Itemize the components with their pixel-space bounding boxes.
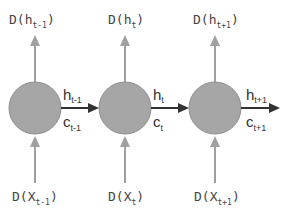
- output-label: D(ht): [108, 12, 144, 30]
- hidden-state-label: ht+1: [246, 86, 267, 105]
- hidden-state-label: ht: [153, 86, 164, 105]
- cell-node: [189, 82, 241, 134]
- cell-state-label: ct-1: [63, 113, 81, 133]
- output-label: D(ht+1): [193, 12, 239, 30]
- cell-node: [99, 82, 151, 134]
- cell-node: [9, 82, 61, 134]
- arrow-up-icon: [30, 35, 40, 46]
- cell-state-label: ct: [153, 113, 164, 133]
- arrow-right-icon: [269, 103, 280, 113]
- rnn-diagram: D(ht-1) D(Xt-1) ht-1 ct-1 D(ht) D(Xt) ht…: [0, 0, 291, 214]
- arrow-up-icon: [30, 136, 40, 147]
- arrow-up-icon: [120, 136, 130, 147]
- state-transition-1: ht-1 ct-1: [61, 86, 99, 133]
- output-label: D(ht-1): [9, 12, 55, 30]
- cell-state-label: ct+1: [246, 113, 266, 133]
- arrow-up-icon: [210, 136, 220, 147]
- state-transition-3: ht+1 ct+1: [241, 86, 280, 133]
- cell-t: D(ht) D(Xt): [99, 12, 151, 207]
- state-transition-2: ht ct: [151, 86, 189, 133]
- input-label: D(Xt-1): [12, 189, 58, 207]
- arrow-up-icon: [210, 35, 220, 46]
- cell-t-plus-1: D(ht+1) D(Xt+1): [189, 12, 241, 207]
- arrow-right-icon: [88, 103, 99, 113]
- arrow-up-icon: [120, 35, 130, 46]
- cell-t-minus-1: D(ht-1) D(Xt-1): [9, 12, 61, 207]
- arrow-right-icon: [178, 103, 189, 113]
- input-label: D(Xt): [108, 189, 144, 207]
- input-label: D(Xt+1): [194, 189, 240, 207]
- hidden-state-label: ht-1: [63, 86, 82, 105]
